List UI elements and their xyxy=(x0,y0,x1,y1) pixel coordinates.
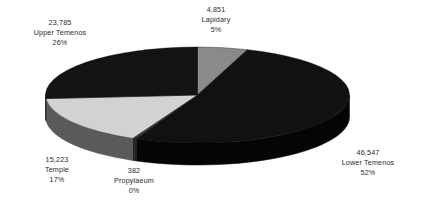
slice-label-temple-value: 15,223 xyxy=(14,155,100,165)
slice-label-propylaeum-percent: 0% xyxy=(84,186,184,196)
slice-label-temple: 15,223 Temple 17% xyxy=(14,155,100,185)
slice-label-lower-temenos-value: 46,547 xyxy=(316,148,420,158)
slice-label-temple-percent: 17% xyxy=(14,175,100,185)
pie-side-propylaeum xyxy=(133,138,137,161)
pie-chart-figure: 4,851 Lapidary 5% 46,547 Lower Temenos 5… xyxy=(0,0,422,210)
slice-label-lapidary: 4,851 Lapidary 5% xyxy=(160,5,272,35)
slice-label-lapidary-name: Lapidary xyxy=(160,15,272,25)
slice-label-temple-name: Temple xyxy=(14,165,100,175)
slice-label-upper-temenos-percent: 26% xyxy=(8,38,112,48)
pie-top-faces xyxy=(46,47,350,143)
slice-label-lapidary-value: 4,851 xyxy=(160,5,272,15)
slice-label-lower-temenos-name: Lower Temenos xyxy=(316,158,420,168)
slice-label-lower-temenos-percent: 52% xyxy=(316,168,420,178)
slice-label-lapidary-percent: 5% xyxy=(160,25,272,35)
slice-label-upper-temenos-value: 23,785 xyxy=(8,18,112,28)
slice-label-lower-temenos: 46,547 Lower Temenos 52% xyxy=(316,148,420,178)
slice-label-upper-temenos-name: Upper Temenos xyxy=(8,28,112,38)
pie-slice-upper-temenos xyxy=(46,47,198,99)
slice-label-upper-temenos: 23,785 Upper Temenos 26% xyxy=(8,18,112,48)
